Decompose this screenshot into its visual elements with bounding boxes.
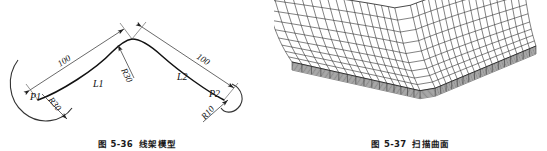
mesh-wireframe [274, 0, 536, 99]
dimension-left-100: 100 [26, 23, 132, 100]
curve-label-l2: L2 [176, 71, 188, 82]
mesh-line [487, 0, 505, 59]
construction-arc-right [221, 84, 242, 112]
caption-title: 线架模型 [139, 139, 176, 149]
caption-number: 图 5-36 [98, 139, 133, 149]
curve-label-l1: L1 [92, 78, 104, 89]
leader-left-r30: R30 [42, 94, 67, 119]
caption-number: 图 5-37 [371, 139, 406, 149]
figure-swept-surface: 图 5-37扫描曲面 [274, 0, 547, 151]
radius-apex-label: R30 [119, 66, 135, 85]
mesh-line [274, 0, 522, 8]
mesh-line [292, 51, 536, 96]
figure-wireframe-model: 100 100 R30 R30 R10 [0, 0, 274, 151]
dimension-right-label: 100 [195, 51, 212, 67]
mesh-line [274, 4, 527, 43]
mesh-line [480, 0, 498, 62]
mesh-line [410, 5, 435, 88]
point-label-p1: P1 [29, 91, 41, 102]
caption-title: 扫描曲面 [412, 139, 449, 149]
mesh-line [292, 49, 536, 94]
radius-right-label: R10 [198, 104, 216, 123]
wireframe-drawing: 100 100 R30 R30 R10 [0, 0, 274, 130]
figure-page: 100 100 R30 R30 R10 [0, 0, 547, 151]
caption-figure-5-37: 图 5-37扫描曲面 [274, 137, 547, 149]
dimension-left-label: 100 [56, 53, 73, 69]
profile-curve-group [38, 39, 224, 100]
radius-left-label: R30 [46, 94, 64, 113]
point-label-p2: P2 [208, 88, 220, 99]
caption-figure-5-36: 图 5-36线架模型 [0, 137, 274, 149]
swept-surface-mesh [274, 0, 547, 130]
leader-apex-r30: R30 [118, 45, 135, 84]
mesh-line [522, 0, 536, 46]
profile-curve-l1 [38, 39, 132, 100]
mesh-line [494, 0, 511, 57]
dimension-right-100: 100 [132, 22, 238, 100]
